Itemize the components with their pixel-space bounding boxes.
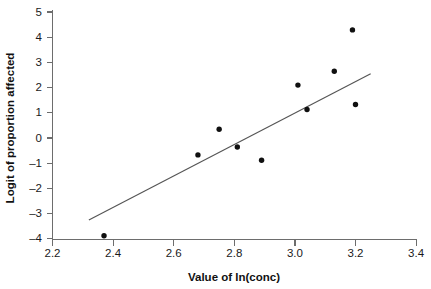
y-axis-title: Logit of proportion affected [4, 53, 16, 204]
y-tick: 3 [36, 56, 53, 68]
x-tick-label: 2.6 [166, 247, 182, 259]
data-point [195, 152, 200, 157]
x-axis-title: Value of ln(conc) [188, 271, 280, 283]
y-tick-label: 5 [36, 6, 42, 18]
x-tick-label: 3.0 [287, 247, 303, 259]
plot-canvas: 5 4 3 2 1 0 –1 [0, 0, 431, 289]
y-tick-label: 1 [36, 106, 42, 118]
y-tick-label: 4 [36, 31, 43, 43]
y-tick: 4 [36, 31, 53, 43]
y-tick: –3 [29, 207, 52, 219]
regression-fit-line [89, 74, 371, 220]
scatter-plot-figure: 5 4 3 2 1 0 –1 [0, 0, 431, 289]
data-point [350, 27, 355, 32]
y-tick: –1 [29, 157, 52, 169]
x-tick: 2.6 [166, 240, 182, 260]
x-tick-label: 2.2 [45, 247, 61, 259]
x-axis-ticks: 2.2 2.4 2.6 2.8 3.0 3.2 [45, 240, 425, 260]
x-tick-label: 2.8 [226, 247, 242, 259]
y-tick: –4 [29, 232, 52, 244]
y-tick-label: 2 [36, 81, 42, 93]
y-tick-label: –3 [29, 207, 42, 219]
data-point [353, 102, 358, 107]
y-tick: –2 [29, 182, 52, 194]
x-tick: 2.4 [105, 240, 122, 260]
y-tick: 2 [36, 81, 53, 93]
x-tick: 3.2 [348, 240, 364, 260]
y-tick: 5 [36, 6, 53, 18]
y-tick-label: 0 [36, 132, 42, 144]
data-point [101, 233, 106, 238]
x-tick-label: 3.2 [348, 247, 364, 259]
x-tick-label: 2.4 [105, 247, 122, 259]
x-tick: 3.0 [287, 240, 303, 260]
y-tick: 0 [36, 132, 53, 144]
y-tick-label: –2 [29, 182, 42, 194]
data-point [216, 126, 221, 131]
data-point [295, 82, 300, 87]
x-tick: 3.4 [408, 240, 425, 260]
y-tick-label: –4 [29, 232, 42, 244]
x-tick: 2.8 [226, 240, 242, 260]
data-points-group [101, 27, 358, 238]
x-tick: 2.2 [45, 240, 61, 260]
data-point [235, 144, 240, 149]
y-tick-label: –1 [29, 157, 42, 169]
y-tick: 1 [36, 106, 53, 118]
x-tick-label: 3.4 [408, 247, 425, 259]
data-point [304, 107, 309, 112]
data-point [259, 157, 264, 162]
y-axis-ticks: 5 4 3 2 1 0 –1 [29, 6, 52, 245]
y-tick-label: 3 [36, 56, 42, 68]
data-point [332, 69, 337, 74]
